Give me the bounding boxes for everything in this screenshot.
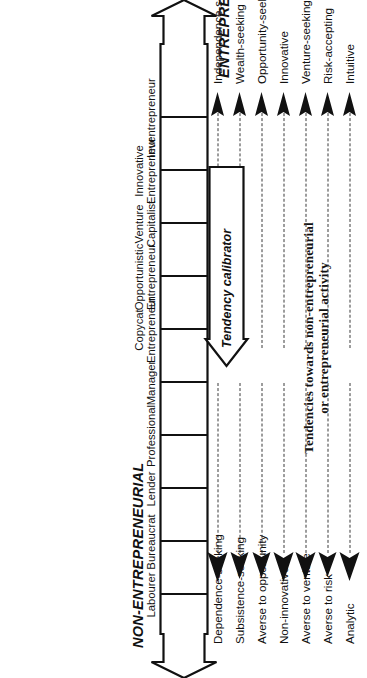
- tendency-calibrator-label: Tendency calibrator: [219, 229, 233, 348]
- axis-tick: [160, 275, 207, 277]
- axis-tick: [160, 540, 207, 542]
- role-line: Entrepreneur: [144, 244, 156, 311]
- role-line: Lender: [144, 471, 156, 506]
- trait-connector-line: [327, 108, 328, 348]
- axis-tick: [160, 434, 207, 436]
- role-line: Inventrepreneur: [144, 78, 156, 158]
- axis-tick: [160, 169, 207, 171]
- axis-label-opportunistic-entrepreneur: Opportunistic Entrepreneur: [132, 244, 156, 311]
- trait-entrepreneurial-innovative: Innovative: [277, 31, 290, 84]
- axis-tick: [160, 222, 207, 224]
- trait-non-entrepreneurial-averse-to-opportunity: Averse to opportunity: [255, 535, 268, 644]
- role-line: Bureaucrat: [144, 514, 156, 569]
- axis-tick-group: [160, 0, 207, 678]
- trait-non-entrepreneurial-subsistence-seeking: Subsistence-seeking: [233, 537, 246, 644]
- trait-connector-line: [283, 108, 284, 348]
- trait-entrepreneurial-independence-seeking: Independence-seeking: [211, 0, 224, 84]
- trait-non-entrepreneurial-averse-to-venture: Averse to venture: [299, 553, 312, 644]
- axis-tick: [160, 328, 207, 330]
- trait-entrepreneurial-opportunity-seeking: Opportunity-seeking: [255, 0, 268, 84]
- trait-connector-line: [283, 383, 284, 553]
- trait-entrepreneurial-wealth-seeking: Wealth-seeking: [233, 4, 246, 84]
- trait-connector-line: [327, 383, 328, 553]
- trait-connector-line: [261, 108, 262, 348]
- role-line: Capitalist: [144, 201, 156, 247]
- axis-tick: [160, 593, 207, 595]
- role-line: Professional: [144, 405, 156, 467]
- entrepreneurial-arrowheads: [205, 90, 365, 116]
- figure-stage: Labourer Bureaucrat Lender Professional …: [0, 0, 367, 678]
- trait-entrepreneurial-risk-accepting: Risk-accepting: [321, 8, 334, 84]
- trait-entrepreneurial-venture-seeking: Venture-seeking: [299, 0, 312, 84]
- trait-connector-line: [305, 383, 306, 553]
- trait-non-entrepreneurial-dependence-seeking: Dependence-seeking: [211, 534, 224, 644]
- axis-label-bureaucrat: Bureaucrat: [144, 514, 156, 569]
- axis-tick: [160, 381, 207, 383]
- axis-label-manager: Manager: [144, 361, 156, 406]
- trait-entrepreneurial-intuitive: Intuitive: [343, 44, 356, 84]
- role-line: Labourer: [144, 572, 156, 617]
- axis-label-labourer: Labourer: [144, 572, 156, 617]
- trait-connector-line: [349, 383, 350, 553]
- role-line: Opportunistic: [132, 244, 144, 311]
- role-line: Innovative: [132, 138, 144, 204]
- trait-connector-line: [261, 383, 262, 553]
- axis-label-inventrepreneur: Inventrepreneur: [144, 78, 156, 158]
- axis-tick: [160, 487, 207, 489]
- section-caption-non-entrepreneurial: NON-ENTREPRENEURIAL: [129, 463, 145, 648]
- role-line: Manager: [144, 361, 156, 406]
- axis-label-lender: Lender: [144, 471, 156, 506]
- figure-title-line-1: Tendencies towards non-entrepreneurial: [300, 222, 315, 453]
- trait-connector-line: [349, 108, 350, 348]
- trait-non-entrepreneurial-analytic: Analytic: [343, 603, 356, 644]
- axis-label-professional: Professional: [144, 405, 156, 467]
- trait-connector-line: [239, 383, 240, 553]
- trait-connector-line: [305, 108, 306, 348]
- axis-label-venture-capitalist: Venture Capitalist: [132, 201, 156, 247]
- role-line: Venture: [132, 201, 144, 247]
- figure-canvas: Labourer Bureaucrat Lender Professional …: [0, 0, 367, 678]
- axis-tick: [160, 116, 207, 118]
- trait-non-entrepreneurial-non-innovative: Non-innovative: [277, 567, 290, 644]
- trait-non-entrepreneurial-averse-to-risk: Averse to risk: [321, 574, 334, 644]
- trait-connector-line: [217, 383, 218, 553]
